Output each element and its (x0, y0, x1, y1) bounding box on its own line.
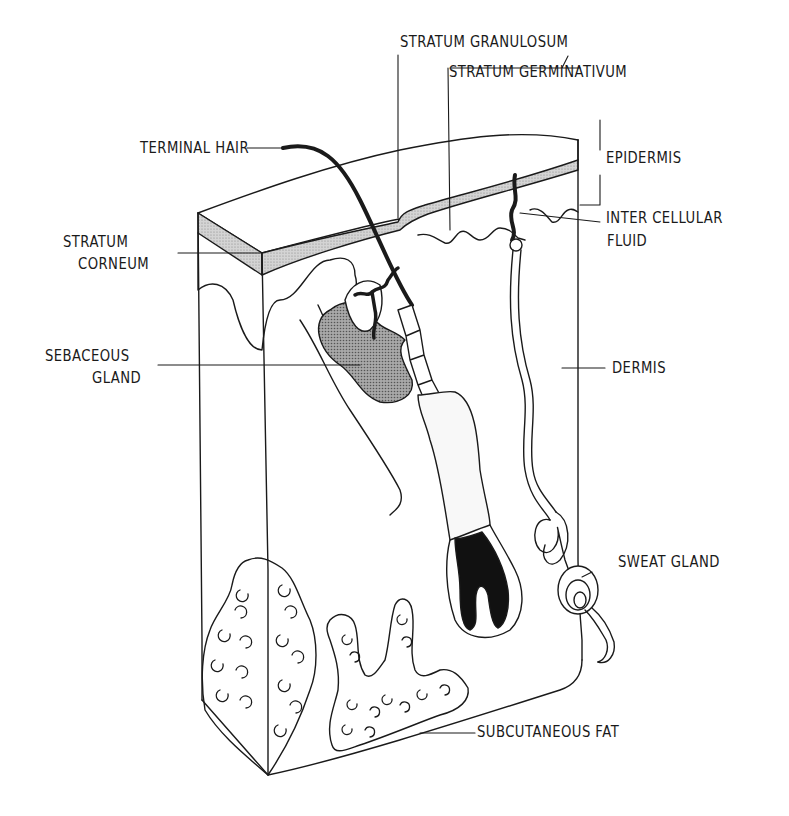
fat-cell-curls (211, 585, 449, 737)
label-sebaceous-gland-line1: SEBACEOUS (45, 346, 130, 366)
label-intercellular-fluid-line2: FLUID (607, 231, 647, 251)
block-bottom-edge (202, 660, 582, 775)
stratum-corneum-band (198, 213, 262, 275)
block-left-edge (198, 213, 202, 700)
sweat-duct (510, 250, 550, 520)
label-stratum-corneum-line1: STRATUM (63, 232, 128, 252)
skin-top-surface (198, 135, 578, 213)
label-sebaceous-gland-line2: GLAND (92, 368, 141, 388)
label-stratum-germinativum: STRATUM GERMINATIVUM (449, 62, 627, 82)
label-epidermis: EPIDERMIS (606, 148, 682, 168)
label-stratum-granulosum: STRATUM GRANULOSUM (400, 32, 568, 52)
hair-follicle (418, 392, 490, 540)
hair-bulb (455, 532, 508, 630)
skin-cross-section-illustration (0, 0, 789, 816)
label-terminal-hair: TERMINAL HAIR (140, 138, 249, 158)
label-subcutaneous-fat: SUBCUTANEOUS FAT (477, 722, 619, 742)
label-sweat-gland: SWEAT GLAND (618, 552, 720, 572)
label-dermis: DERMIS (612, 358, 666, 378)
label-stratum-corneum-line2: CORNEUM (78, 254, 149, 274)
label-intercellular-fluid-line1: INTER CELLULAR (606, 208, 723, 228)
fat-lobule-large (202, 558, 316, 775)
